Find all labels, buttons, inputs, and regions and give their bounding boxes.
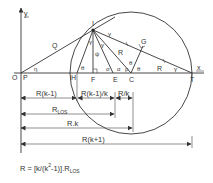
angle-theta-C-right: θ [137,66,141,72]
angle-eta: η [34,66,37,72]
formula-R: R = [k/(k2-1)].RLOS [20,162,80,174]
label-Q: Q [52,42,58,50]
angle-gamma-IE: γ [101,42,104,48]
angle-sigma: σ [106,66,110,72]
angle-theta-C-left: θ [129,60,133,66]
dim-label-R-k-minus-1-over-k: R(k-1)/k [81,89,108,98]
x-axis-label: x [197,64,201,71]
angle-rho: ρ [125,66,129,72]
dim-label-R-over-k: R/k [118,89,130,98]
label-I: I [92,20,94,27]
label-R-IC: R [118,49,123,56]
label-P: P [23,74,28,81]
line-IH [77,30,93,73]
dim-label-R-k-plus-1: R(k+1) [82,135,105,144]
formula-prefix: R = [k/(k [20,164,48,173]
formula-sub: LOS [70,168,80,174]
label-T: T [190,76,195,83]
angle-psi: ψ [95,51,99,57]
label-G: G [141,38,146,45]
dim-label-R-k-minus-1: R(k-1) [36,89,57,98]
origin-label: O [12,74,18,81]
angle-gamma-top: γ [108,31,111,37]
angle-alpha: α [117,66,121,72]
point-I [91,28,94,31]
formula-middle: -1)].R [51,164,70,173]
dim-label-R-k: R.k [67,119,79,128]
angle-gamma-IF: γ [89,39,92,45]
line-I-extension [93,17,115,30]
angle-gamma-T: γ [174,66,177,72]
label-F: F [91,76,95,83]
geometry-diagram: y x O P H F E C T I G Q R R η θ γ ψ γ σ … [0,0,213,183]
angle-theta-H: θ [81,65,85,71]
label-E: E [113,76,118,83]
dim-label-R-LOS: RLOS [52,105,68,115]
label-H: H [71,74,76,81]
right-angle-F [93,69,97,73]
dim-label-R-LOS-sub: LOS [57,109,68,115]
label-C: C [129,76,134,83]
label-R-CT: R [157,65,162,72]
